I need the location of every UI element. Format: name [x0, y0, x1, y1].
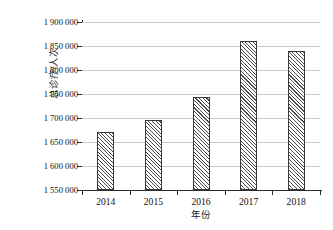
x-tick-mark [82, 191, 83, 195]
y-tick-label: 1 550 000 [22, 186, 78, 195]
x-tick-label: 2018 [273, 196, 319, 207]
y-tick-label: 1 900 000 [22, 18, 78, 27]
y-tick-mark [77, 142, 82, 143]
gridline [82, 70, 320, 71]
x-tick-mark [272, 191, 273, 195]
y-tick-label: 1 600 000 [22, 162, 78, 171]
bar-chart: 总诊疗/人次 1 550 0001 600 0001 650 0001 700 … [0, 0, 333, 230]
y-tick-mark [77, 94, 82, 95]
bar-2017 [240, 41, 257, 190]
y-axis-tick-labels: 1 550 0001 600 0001 650 0001 700 0001 75… [22, 0, 78, 230]
bar-2014 [97, 132, 114, 190]
bar-2015 [145, 120, 162, 190]
x-tick-mark [130, 191, 131, 195]
y-tick-mark [77, 166, 82, 167]
x-tick-label: 2016 [178, 196, 224, 207]
y-tick-label: 1 850 000 [22, 42, 78, 51]
y-tick-mark [77, 118, 82, 119]
gridline [82, 22, 320, 23]
x-tick-mark [320, 191, 321, 195]
y-tick-mark [77, 22, 82, 23]
x-tick-mark [225, 191, 226, 195]
x-tick-mark [177, 191, 178, 195]
gridline [82, 94, 320, 95]
x-axis-line [82, 190, 322, 191]
y-tick-mark [77, 46, 82, 47]
y-tick-label: 1 750 000 [22, 90, 78, 99]
y-tick-label: 1 650 000 [22, 138, 78, 147]
x-tick-label: 2014 [83, 196, 129, 207]
y-tick-mark [77, 70, 82, 71]
bar-2016 [193, 97, 210, 190]
x-tick-label: 2017 [226, 196, 272, 207]
plot-area [82, 22, 320, 190]
bar-2018 [288, 51, 305, 190]
y-tick-label: 1 700 000 [22, 114, 78, 123]
x-tick-label: 2015 [130, 196, 176, 207]
x-axis-title: 年份 [82, 210, 320, 221]
y-tick-label: 1 800 000 [22, 66, 78, 75]
gridline [82, 46, 320, 47]
